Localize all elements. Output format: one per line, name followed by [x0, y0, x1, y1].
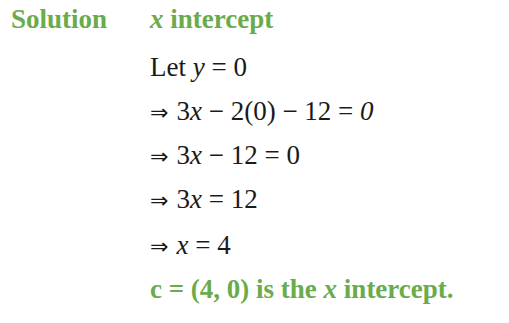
section-heading: x intercept: [150, 4, 273, 34]
step-expression: = 0: [205, 52, 247, 82]
heading-text: intercept: [164, 4, 274, 34]
step-variable: x: [190, 96, 202, 126]
conclusion-suffix: intercept.: [337, 274, 453, 304]
implies-arrow-icon: ⇒: [150, 188, 168, 213]
step-substitute: ⇒3x − 2(0) − 12 = 0: [150, 96, 374, 128]
step-variable: x: [190, 140, 202, 170]
step-rhs: 0: [360, 96, 374, 126]
implies-arrow-icon: ⇒: [150, 144, 168, 169]
step-solve: ⇒x = 4: [150, 230, 231, 262]
step-let: Let y = 0: [150, 52, 247, 82]
step-simplify: ⇒3x − 12 = 0: [150, 140, 300, 172]
implies-arrow-icon: ⇒: [150, 234, 168, 259]
step-prefix: Let: [150, 52, 193, 82]
implies-arrow-icon: ⇒: [150, 100, 168, 125]
heading-variable: x: [150, 4, 164, 34]
conclusion-variable: x: [324, 274, 338, 304]
coefficient: 3: [176, 184, 190, 214]
step-variable: x: [190, 184, 202, 214]
conclusion-prefix: c = (4, 0) is the: [150, 274, 324, 304]
coefficient: 3: [176, 96, 190, 126]
step-isolate: ⇒3x = 12: [150, 184, 258, 216]
step-expression: = 12: [202, 184, 258, 214]
solution-label: Solution: [11, 4, 107, 34]
conclusion: c = (4, 0) is the x intercept.: [150, 274, 454, 304]
step-variable: y: [193, 52, 205, 82]
step-expression: = 4: [188, 230, 230, 260]
step-variable: x: [176, 230, 188, 260]
step-expression: − 2(0) − 12 =: [202, 96, 360, 126]
coefficient: 3: [176, 140, 190, 170]
step-expression: − 12 = 0: [202, 140, 300, 170]
